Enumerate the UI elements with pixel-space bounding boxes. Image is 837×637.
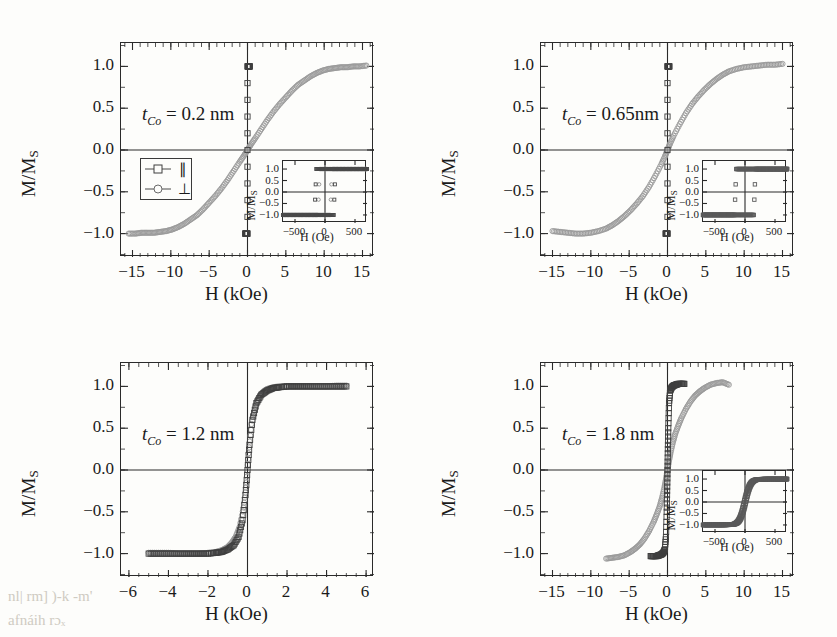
inset-y-axis-label: M/MS [664, 500, 679, 531]
inset-plot-frame [702, 470, 786, 532]
panel-d: −15−10−5051015−1.0−0.50.00.51.0M/MSH (kO… [0, 0, 837, 637]
figure-hysteresis-loops: −15−10−5051015−1.0−0.50.00.51.0M/MSH (kO… [0, 0, 837, 637]
inset-low-field-loop: −5000500−1.0−0.50.00.51.0M/MSH (Oe) [0, 0, 837, 637]
inset-x-axis-label: H (Oe) [720, 540, 754, 555]
y-tick-label: −0.5 [679, 506, 699, 518]
x-tick-label: 500 [766, 535, 783, 547]
ghost-text-line-2: afnáih rɔₓ [8, 612, 65, 629]
y-tick-label: 0.5 [685, 484, 699, 496]
y-tick-label: 1.0 [685, 472, 699, 484]
y-tick-label: −1.0 [679, 518, 699, 530]
inset-plot-canvas [703, 471, 787, 533]
y-tick-label: 0.0 [685, 495, 699, 507]
ghost-text-line-1: nl| rm] )-k -m' [8, 588, 92, 605]
